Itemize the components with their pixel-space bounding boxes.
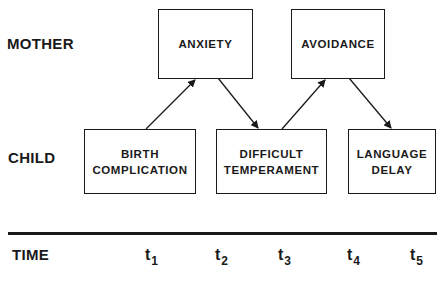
box-language-delay: LANGUAGE DELAY	[348, 129, 436, 194]
box-avoidance: AVOIDANCE	[291, 9, 385, 79]
timeline-axis	[8, 232, 437, 235]
box-birth-complication-label: BIRTH COMPLICATION	[92, 146, 187, 178]
arrow-avoidance-to-language	[349, 78, 391, 128]
box-difficult-temperament-label: DIFFICULT TEMPERAMENT	[224, 146, 319, 178]
box-anxiety-label: ANXIETY	[178, 36, 232, 52]
arrow-temperament-to-avoidance	[282, 80, 325, 129]
box-avoidance-label: AVOIDANCE	[301, 36, 375, 52]
time-point-t2: t2	[215, 246, 228, 268]
arrow-anxiety-to-temperament	[218, 78, 258, 128]
box-anxiety: ANXIETY	[158, 9, 253, 79]
time-point-t1: t1	[145, 246, 158, 268]
time-point-t3: t3	[278, 246, 291, 268]
arrow-birth-to-anxiety	[146, 80, 195, 129]
box-difficult-temperament: DIFFICULT TEMPERAMENT	[216, 129, 327, 194]
time-point-t4: t4	[347, 246, 360, 268]
box-language-delay-label: LANGUAGE DELAY	[357, 146, 428, 178]
time-point-t5: t5	[410, 246, 423, 268]
box-birth-complication: BIRTH COMPLICATION	[84, 129, 196, 194]
